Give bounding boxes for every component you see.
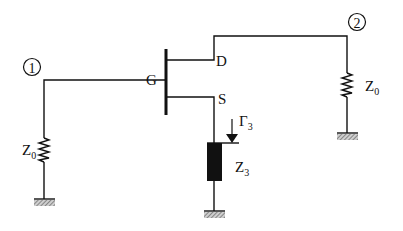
drain-wire [166,36,347,73]
port-2-label: 2 [354,16,361,31]
right-resistor-icon [342,73,352,97]
ground-icons [34,133,358,218]
left-load-label: Z0 [22,142,36,161]
source-label: S [218,91,226,107]
source-load-label: Z3 [235,159,249,178]
circuit-diagram: 1 2 G D S [0,0,403,231]
wires [44,36,347,211]
reflection-label: Γ3 [239,113,253,132]
gate-wire [44,80,166,138]
drain-label: D [216,53,227,69]
gate-bar [165,49,168,115]
right-load-label: Z0 [365,78,379,97]
gate-label: G [146,72,157,88]
port-1-label: 1 [29,61,36,76]
reflection-arrow-icon [226,119,238,143]
left-resistor-icon [39,138,49,162]
port-1-terminal: 1 [24,59,41,76]
source-wire [166,97,214,143]
source-impedance-block [207,143,222,181]
port-2-terminal: 2 [349,14,366,31]
